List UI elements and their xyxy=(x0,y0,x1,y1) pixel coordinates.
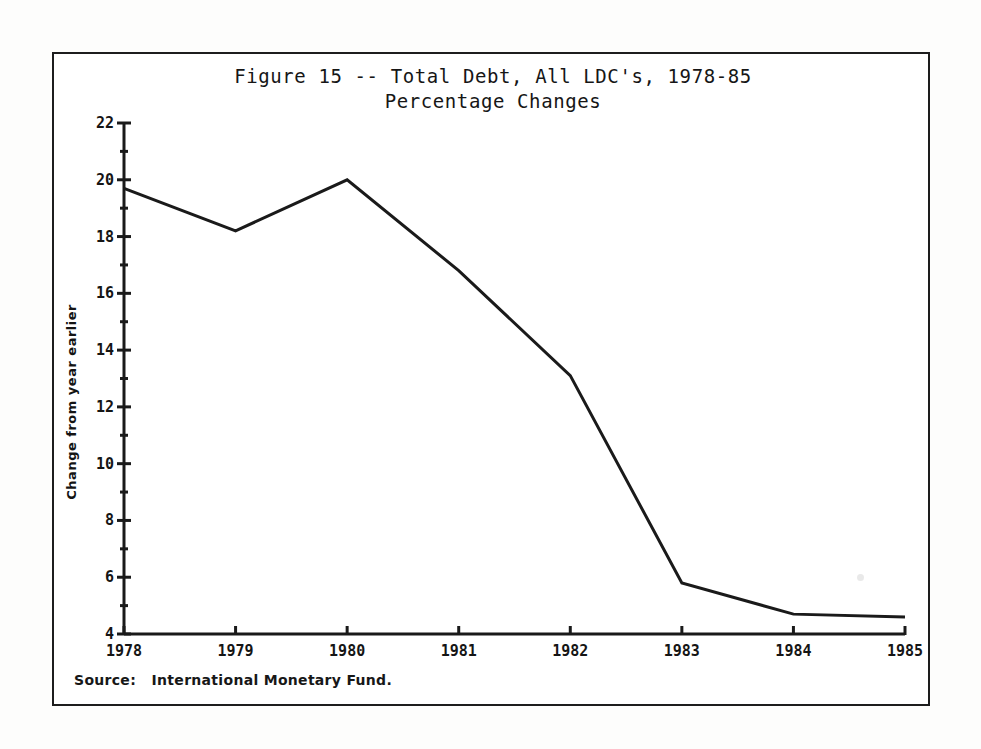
data-line-total-debt xyxy=(124,180,905,617)
chart-title-line-1: Figure 15 -- Total Debt, All LDC's, 1978… xyxy=(54,64,932,89)
y-tick-label: 20 xyxy=(74,171,114,189)
y-tick-label: 12 xyxy=(74,398,114,416)
y-tick-label: 22 xyxy=(74,114,114,132)
x-tick-label: 1985 xyxy=(865,642,945,660)
x-tick-label: 1980 xyxy=(307,642,387,660)
page-edge-rule xyxy=(0,0,2,749)
x-tick-label: 1981 xyxy=(419,642,499,660)
x-tick-label: 1984 xyxy=(753,642,833,660)
chart-title-block: Figure 15 -- Total Debt, All LDC's, 1978… xyxy=(54,64,932,114)
x-tick-label: 1982 xyxy=(530,642,610,660)
y-tick-label: 18 xyxy=(74,228,114,246)
y-tick-label: 6 xyxy=(74,568,114,586)
plot-area: 22201816141210864 1978197919801981198219… xyxy=(124,123,905,634)
y-tick-label: 4 xyxy=(74,625,114,643)
x-tick-label: 1979 xyxy=(196,642,276,660)
source-note: Source: International Monetary Fund. xyxy=(74,672,392,688)
chart-svg xyxy=(84,109,944,684)
y-tick-label: 16 xyxy=(74,284,114,302)
scan-speck xyxy=(857,574,864,581)
x-tick-label: 1983 xyxy=(642,642,722,660)
y-tick-label: 10 xyxy=(74,455,114,473)
y-tick-label: 8 xyxy=(74,511,114,529)
page-canvas: Figure 15 -- Total Debt, All LDC's, 1978… xyxy=(0,0,981,749)
x-tick-label: 1978 xyxy=(84,642,164,660)
y-tick-label: 14 xyxy=(74,341,114,359)
figure-frame: Figure 15 -- Total Debt, All LDC's, 1978… xyxy=(52,52,930,706)
